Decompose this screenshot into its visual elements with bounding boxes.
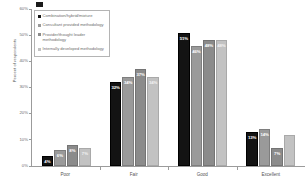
- bar[interactable]: 7%: [271, 148, 283, 166]
- bar[interactable]: 48%: [203, 40, 215, 166]
- y-tick-label: 60%: [12, 6, 28, 11]
- legend-label: Provider/thought leader methodology: [43, 33, 106, 43]
- bar-value-label: 48%: [204, 43, 214, 48]
- y-tick-label: 50%: [12, 32, 28, 37]
- legend-swatch-icon: [38, 24, 41, 27]
- legend-item[interactable]: Internally developed methodology: [38, 47, 106, 52]
- bar-value-label: 7%: [272, 151, 282, 156]
- bar[interactable]: 51%: [178, 33, 190, 166]
- x-tick-divider: [237, 167, 238, 170]
- x-tick-divider: [100, 167, 101, 170]
- top-marker-icon: [36, 2, 43, 7]
- bar[interactable]: 6%: [54, 150, 66, 166]
- legend-label: Internally developed methodology: [43, 47, 104, 52]
- legend-swatch-icon: [38, 33, 41, 36]
- bar[interactable]: 13%: [246, 132, 258, 166]
- bar[interactable]: 14%: [259, 129, 271, 166]
- y-tick-label: 0%: [12, 163, 28, 168]
- bar-value-label: 14%: [260, 132, 270, 137]
- y-tick-label: 40%: [12, 58, 28, 63]
- bar-value-label: 8%: [68, 148, 78, 153]
- bar[interactable]: [284, 135, 296, 166]
- y-tick-label: 10%: [12, 137, 28, 142]
- bar[interactable]: 37%: [135, 69, 147, 166]
- bar-group: 32%34%37%34%: [100, 9, 168, 166]
- bar[interactable]: 32%: [110, 82, 122, 166]
- bar[interactable]: 7%: [79, 148, 91, 166]
- legend-swatch-icon: [38, 15, 41, 18]
- bar-value-label: 46%: [192, 49, 202, 54]
- bar-value-label: 13%: [247, 135, 257, 140]
- bar-value-label: 48%: [217, 43, 227, 48]
- bar-value-label: 34%: [148, 80, 158, 85]
- bar-value-label: 37%: [136, 72, 146, 77]
- bar-value-label: 51%: [179, 36, 189, 41]
- legend-label: Consultant provided methodology: [43, 23, 104, 28]
- x-tick-label: Fair: [130, 172, 138, 177]
- bar-value-label: 4%: [43, 159, 53, 164]
- bar-value-label: 32%: [111, 85, 121, 90]
- x-tick-divider: [168, 167, 169, 170]
- chart-legend: Combination/hybrid/mixtureConsultant pro…: [34, 10, 110, 57]
- bar[interactable]: 46%: [191, 46, 203, 166]
- bar-group: 13%14%7%: [237, 9, 305, 166]
- legend-label: Combination/hybrid/mixture: [43, 14, 93, 19]
- bar-chart: Percent of respondents 0%10%20%30%40%50%…: [0, 0, 307, 185]
- legend-item[interactable]: Consultant provided methodology: [38, 23, 106, 28]
- bar-group: 51%46%48%48%: [169, 9, 237, 166]
- x-tick: Fair: [100, 167, 169, 185]
- bar-value-label: 34%: [123, 80, 133, 85]
- bar-value-label: 6%: [55, 153, 65, 158]
- x-tick: Excellent: [237, 167, 306, 185]
- bar[interactable]: 8%: [67, 145, 79, 166]
- legend-item[interactable]: Combination/hybrid/mixture: [38, 14, 106, 19]
- x-tick: Poor: [31, 167, 100, 185]
- x-tick-label: Good: [197, 172, 208, 177]
- legend-swatch-icon: [38, 48, 41, 51]
- x-tick: Good: [168, 167, 237, 185]
- y-tick-label: 20%: [12, 110, 28, 115]
- bar[interactable]: 34%: [147, 77, 159, 166]
- x-axis-ticks: PoorFairGoodExcellent: [31, 167, 305, 185]
- y-tick-label: 30%: [12, 84, 28, 89]
- bar[interactable]: 34%: [122, 77, 134, 166]
- legend-item[interactable]: Provider/thought leader methodology: [38, 33, 106, 43]
- x-tick-label: Excellent: [261, 172, 280, 177]
- bar-value-label: 7%: [80, 151, 90, 156]
- bar[interactable]: 4%: [42, 156, 54, 166]
- x-tick-label: Poor: [60, 172, 70, 177]
- bar[interactable]: 48%: [216, 40, 228, 166]
